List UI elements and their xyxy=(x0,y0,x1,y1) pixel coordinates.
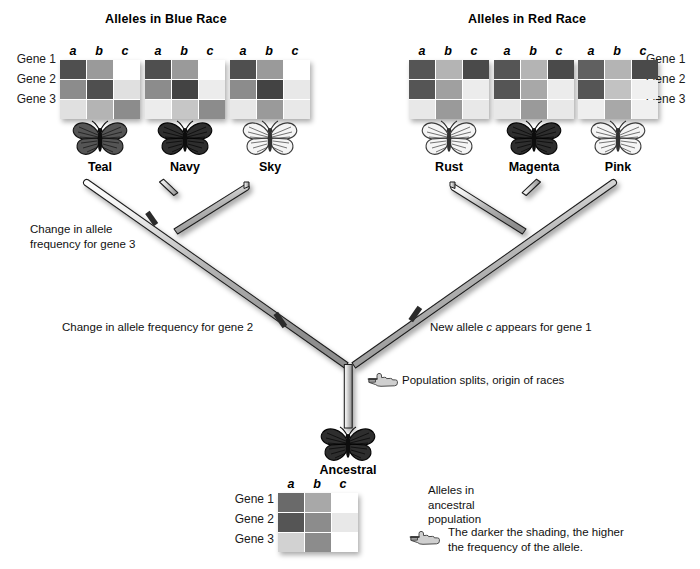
allele-cell-gene1-a xyxy=(60,60,86,79)
allele-column-headers: abc xyxy=(578,45,656,58)
allele-cell-gene1-b xyxy=(257,60,283,79)
allele-cell-gene1-a xyxy=(494,60,520,79)
allele-cell-gene1-b xyxy=(172,60,198,79)
branch-tick-marks xyxy=(145,211,422,328)
allele-cell-gene1-c xyxy=(114,60,140,79)
allele-cell-gene3-c xyxy=(199,100,225,119)
gene-label: Gene 3 xyxy=(218,529,274,549)
gene-labels-left: Gene 1 Gene 2 Gene 3 xyxy=(0,49,56,109)
allele-cell-gene1-b xyxy=(436,60,462,79)
allele-column-headers: abc xyxy=(230,45,308,58)
allele-header-a: a xyxy=(145,45,171,58)
butterfly-icon-ancestral xyxy=(319,424,377,464)
gene-label: Gene 1 xyxy=(0,49,56,69)
allele-cell-gene2-b xyxy=(436,80,462,99)
allele-cell-gene3-a xyxy=(578,100,604,119)
allele-header-b: b xyxy=(604,45,630,58)
allele-cell-gene3-b xyxy=(257,100,283,119)
allele-cell-gene2-c xyxy=(114,80,140,99)
annotation-gene2-change: Change in allele frequency for gene 2 xyxy=(62,320,253,335)
tick-new-allele-c xyxy=(408,306,422,322)
allele-cell-gene3-b xyxy=(521,100,547,119)
allele-cell-gene2-b xyxy=(172,80,198,99)
allele-column-headers: abc xyxy=(278,478,356,491)
allele-cells xyxy=(578,60,658,119)
allele-column-headers: abc xyxy=(409,45,487,58)
allele-column-headers: abc xyxy=(494,45,572,58)
allele-cell-gene2-b xyxy=(87,80,113,99)
shading-legend-caption: The darker the shading, the higher the f… xyxy=(448,525,624,554)
allele-cell-gene1-c xyxy=(332,493,358,512)
butterfly-icon-navy xyxy=(156,118,214,158)
allele-cell-gene1-c xyxy=(463,60,489,79)
allele-cell-gene2-c xyxy=(548,80,574,99)
allele-column-headers: abc xyxy=(145,45,223,58)
allele-header-c: c xyxy=(197,45,223,58)
taxon-label-pink: Pink xyxy=(568,160,668,174)
ancestral-caption-line1: Alleles in xyxy=(428,483,481,498)
allele-cell-gene1-b xyxy=(605,60,631,79)
allele-cell-gene2-a xyxy=(578,80,604,99)
allele-cell-gene2-b xyxy=(521,80,547,99)
allele-cell-gene1-b xyxy=(305,493,331,512)
allele-cell-gene2-c xyxy=(284,80,310,99)
allele-cell-gene1-a xyxy=(278,493,304,512)
allele-cell-gene1-a xyxy=(578,60,604,79)
allele-header-c: c xyxy=(112,45,138,58)
pointing-hand-icon xyxy=(366,368,396,386)
gene-label: Gene 3 xyxy=(0,89,56,109)
diagram-canvas: Alleles in Blue Race Alleles in Red Race… xyxy=(0,0,700,569)
allele-cell-gene1-c xyxy=(284,60,310,79)
gene-label: Gene 1 xyxy=(218,489,274,509)
allele-cells xyxy=(60,60,140,119)
allele-cell-gene1-a xyxy=(145,60,171,79)
allele-header-b: b xyxy=(171,45,197,58)
allele-cell-gene1-a xyxy=(409,60,435,79)
butterfly-icon-teal xyxy=(71,118,129,158)
new-allele-suffix: appears for gene 1 xyxy=(492,321,592,333)
allele-column-headers: abc xyxy=(60,45,138,58)
allele-header-c: c xyxy=(282,45,308,58)
allele-cells xyxy=(494,60,574,119)
allele-header-a: a xyxy=(578,45,604,58)
butterfly-icon-rust xyxy=(420,118,478,158)
blue-race-title: Alleles in Blue Race xyxy=(105,12,227,26)
allele-cell-gene2-a xyxy=(409,80,435,99)
allele-cell-gene3-b xyxy=(605,100,631,119)
annotation-population-splits: Population splits, origin of races xyxy=(402,373,564,388)
allele-header-c: c xyxy=(546,45,572,58)
annotation-gene3-change: Change in allele frequency for gene 3 xyxy=(30,222,136,251)
allele-cell-gene3-c xyxy=(632,100,658,119)
allele-cell-gene2-c xyxy=(632,80,658,99)
allele-cell-gene3-b xyxy=(87,100,113,119)
butterfly-icon-sky xyxy=(241,118,299,158)
allele-cell-gene3-c xyxy=(114,100,140,119)
allele-cell-gene1-b xyxy=(521,60,547,79)
allele-cell-gene2-a xyxy=(278,513,304,532)
allele-cell-gene3-c xyxy=(463,100,489,119)
butterfly-icon-magenta xyxy=(505,118,563,158)
new-allele-prefix: New allele xyxy=(430,321,486,333)
allele-cell-gene2-a xyxy=(60,80,86,99)
allele-cell-gene3-c xyxy=(548,100,574,119)
allele-header-c: c xyxy=(330,478,356,491)
allele-cell-gene1-c xyxy=(548,60,574,79)
annotation-new-allele-c: New allele c appears for gene 1 xyxy=(430,320,592,335)
allele-cell-gene1-c xyxy=(632,60,658,79)
allele-cell-gene3-a xyxy=(230,100,256,119)
allele-header-a: a xyxy=(60,45,86,58)
allele-header-b: b xyxy=(304,478,330,491)
pointing-hand-icon-2 xyxy=(408,526,438,544)
allele-cell-gene2-b xyxy=(305,513,331,532)
tree-branches xyxy=(84,179,617,428)
allele-cell-gene2-a xyxy=(230,80,256,99)
taxon-label-sky: Sky xyxy=(220,160,320,174)
allele-cell-gene1-b xyxy=(87,60,113,79)
allele-cells xyxy=(230,60,310,119)
annotation-gene3-line2: frequency for gene 3 xyxy=(30,237,136,252)
allele-header-b: b xyxy=(435,45,461,58)
allele-header-a: a xyxy=(230,45,256,58)
allele-cell-gene3-a xyxy=(60,100,86,119)
allele-header-b: b xyxy=(86,45,112,58)
allele-cell-gene3-a xyxy=(494,100,520,119)
